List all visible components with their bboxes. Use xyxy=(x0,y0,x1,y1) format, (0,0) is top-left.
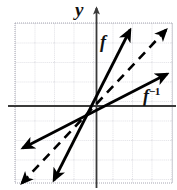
series-label-f-inverse: f−1 xyxy=(143,86,160,105)
y-axis-label: y xyxy=(75,0,83,19)
series-label-f: f xyxy=(100,33,106,51)
f-inverse-exponent: −1 xyxy=(149,85,160,97)
function-inverse-graph-figure: y f f−1 xyxy=(0,0,177,190)
